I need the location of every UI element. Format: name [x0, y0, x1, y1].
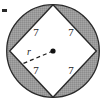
side-label-top-left: 7: [33, 26, 39, 38]
corner-artifact-mark: [2, 9, 7, 12]
side-label-bottom-right: 7: [68, 64, 74, 76]
radius-label: r: [27, 46, 31, 57]
circle-square-diagram: r 7 7 7 7: [0, 0, 101, 108]
center-dot: [50, 48, 55, 53]
side-label-bottom-left: 7: [33, 64, 39, 76]
side-label-top-right: 7: [68, 26, 74, 38]
geometry-figure: r 7 7 7 7: [0, 0, 101, 108]
